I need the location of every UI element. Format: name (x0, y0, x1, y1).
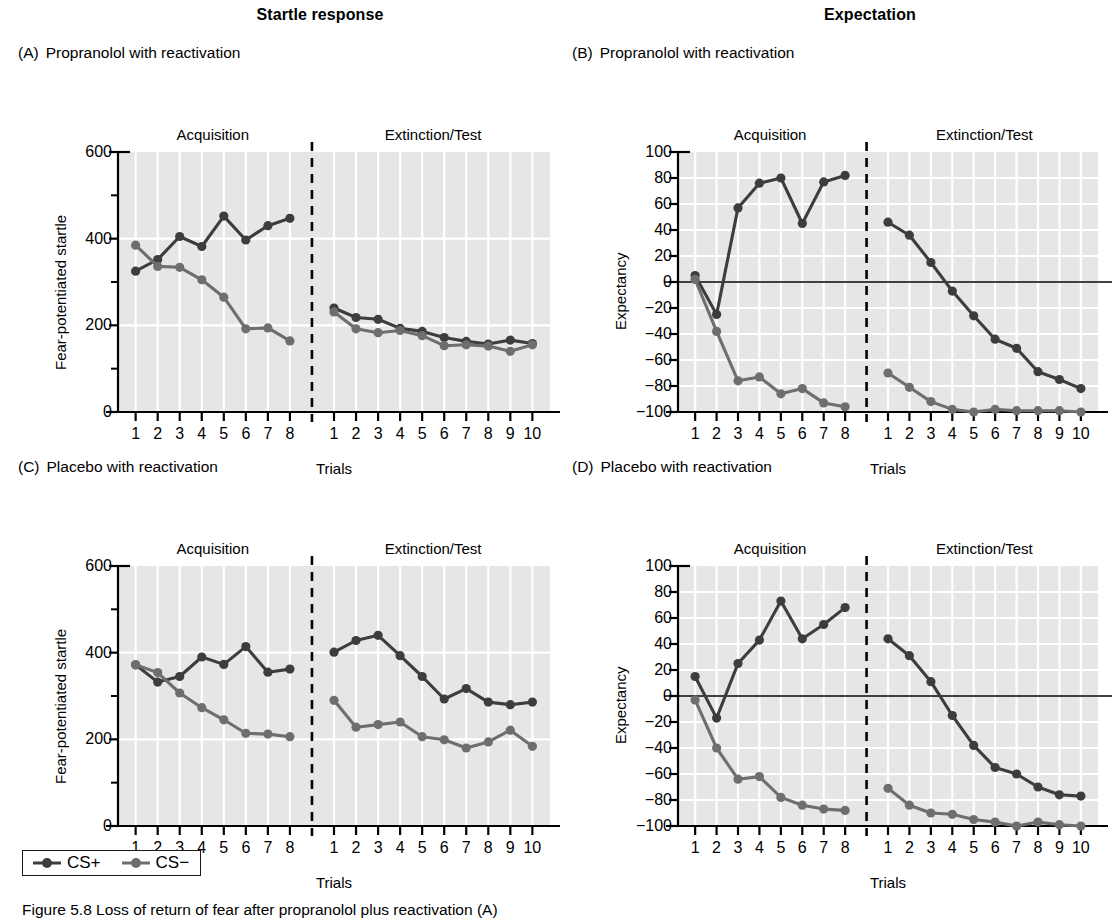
data-point-a-csplus-acq-3 (175, 232, 184, 241)
panel-d: (D)Placebo with reactivationAcquisitionE… (572, 458, 1092, 858)
data-point-a-csminus-ext-4 (396, 326, 405, 335)
data-point-b-csminus-ext-6 (991, 405, 1000, 414)
y-tick-label-d-1: −80 (616, 792, 672, 808)
y-tick-label-b-8: 60 (616, 196, 672, 212)
data-point-b-csplus-ext-1 (883, 218, 892, 227)
data-point-b-csminus-acq-5 (776, 389, 785, 398)
data-point-b-csplus-ext-5 (969, 311, 978, 320)
x-axis-title-c: Trials (118, 874, 550, 891)
data-point-b-csplus-acq-8 (841, 171, 850, 180)
y-tick-label-b-0: −100 (616, 404, 672, 420)
data-point-a-csminus-ext-6 (440, 341, 449, 350)
plot-background-c (118, 566, 550, 826)
panel-title-d: (D)Placebo with reactivation (572, 458, 772, 476)
data-point-a-csplus-ext-9 (506, 336, 515, 345)
series-line-c-csplus-ext (334, 635, 532, 704)
data-point-a-csminus-ext-9 (506, 347, 515, 356)
series-line-c-csminus-ext (334, 700, 532, 748)
data-point-d-csplus-acq-4 (755, 636, 764, 645)
y-tick-label-d-5: 0 (616, 688, 672, 704)
x-tick-label-a-ext-10: 10 (518, 426, 546, 442)
data-point-a-csminus-acq-7 (263, 323, 272, 332)
legend-item-csplus: CS+ (32, 854, 101, 871)
y-tick-label-a-3: 600 (56, 144, 112, 160)
panel-letter-b: (B) (572, 44, 593, 62)
phase-label-extinction-a: Extinction/Test (294, 126, 572, 143)
data-point-b-csplus-acq-6 (798, 219, 807, 228)
data-point-d-csminus-acq-7 (819, 805, 828, 814)
data-point-b-csplus-ext-10 (1076, 384, 1085, 393)
data-point-b-csminus-ext-10 (1076, 407, 1085, 416)
data-point-a-csplus-ext-5 (418, 327, 427, 336)
data-point-c-csminus-ext-9 (506, 726, 515, 735)
data-point-b-csminus-ext-7 (1012, 406, 1021, 415)
panel-letter-c: (C) (18, 458, 40, 476)
series-line-d-csplus-ext (888, 639, 1081, 796)
data-point-d-csplus-acq-3 (733, 659, 742, 668)
panel-title-text-c: Placebo with reactivation (47, 458, 218, 475)
data-point-d-csminus-acq-4 (755, 772, 764, 781)
data-point-c-csplus-ext-1 (329, 648, 338, 657)
data-point-c-csminus-acq-7 (263, 730, 272, 739)
y-tick-label-b-10: 100 (616, 144, 672, 160)
data-point-b-csminus-ext-8 (1033, 406, 1042, 415)
panel-title-a: (A)Propranolol with reactivation (18, 44, 240, 62)
data-point-d-csplus-ext-4 (948, 711, 957, 720)
data-point-d-csminus-ext-7 (1012, 821, 1021, 830)
data-point-b-csminus-acq-8 (841, 402, 850, 411)
data-point-b-csplus-acq-3 (733, 203, 742, 212)
data-point-b-csminus-acq-4 (755, 372, 764, 381)
y-tick-label-d-9: 80 (616, 584, 672, 600)
legend-label-csminus: CS− (156, 854, 190, 871)
data-point-b-csminus-acq-7 (819, 398, 828, 407)
data-point-a-csminus-ext-2 (351, 324, 360, 333)
series-line-b-csminus-ext (888, 373, 1081, 412)
data-point-a-csplus-ext-4 (396, 324, 405, 333)
y-axis-title-b: Expectancy (612, 252, 629, 330)
panel-title-text-b: Propranolol with reactivation (600, 44, 795, 61)
data-point-c-csplus-acq-6 (241, 642, 250, 651)
y-tick-label-b-5: 0 (616, 274, 672, 290)
y-tick-label-b-2: −60 (616, 352, 672, 368)
data-point-c-csplus-acq-3 (175, 672, 184, 681)
data-point-d-csminus-acq-3 (733, 775, 742, 784)
data-point-d-csminus-acq-5 (776, 793, 785, 802)
column-title-expectation: Expectation (690, 6, 1050, 24)
data-point-a-csminus-acq-8 (285, 336, 294, 345)
data-point-a-csplus-ext-7 (462, 337, 471, 346)
data-point-d-csplus-ext-2 (905, 651, 914, 660)
x-tick-label-d-acq-8: 8 (831, 840, 859, 856)
data-point-b-csplus-ext-2 (905, 231, 914, 240)
series-line-d-csplus-acq (695, 601, 845, 718)
data-point-a-csplus-acq-7 (263, 221, 272, 230)
x-tick-label-c-acq-8: 8 (276, 840, 304, 856)
data-point-b-csminus-acq-1 (691, 275, 700, 284)
series-line-b-csplus-acq (695, 175, 845, 314)
data-point-d-csplus-acq-8 (841, 603, 850, 612)
data-point-c-csplus-acq-2 (153, 678, 162, 687)
data-point-d-csminus-acq-8 (841, 806, 850, 815)
data-point-a-csplus-acq-8 (285, 214, 294, 223)
data-point-c-csminus-acq-5 (219, 715, 228, 724)
phase-label-extinction-b: Extinction/Test (848, 126, 1116, 143)
data-point-c-csminus-acq-3 (175, 688, 184, 697)
data-point-c-csminus-ext-10 (528, 742, 537, 751)
y-tick-label-d-10: 100 (616, 558, 672, 574)
data-point-a-csminus-acq-4 (197, 275, 206, 284)
y-tick-label-b-7: 40 (616, 222, 672, 238)
data-point-d-csplus-acq-5 (776, 597, 785, 606)
data-point-c-csplus-ext-3 (374, 631, 383, 640)
data-point-d-csplus-ext-6 (991, 763, 1000, 772)
y-tick-label-d-8: 60 (616, 610, 672, 626)
caption-text: Figure 5.8 Loss of return of fear after … (22, 901, 498, 918)
data-point-c-csminus-acq-8 (285, 732, 294, 741)
data-point-d-csplus-ext-1 (883, 634, 892, 643)
data-point-b-csminus-acq-2 (712, 327, 721, 336)
data-point-a-csplus-ext-8 (484, 339, 493, 348)
plot-background-a (118, 152, 550, 412)
data-point-a-csplus-acq-6 (241, 235, 250, 244)
data-point-a-csminus-acq-5 (219, 293, 228, 302)
figure-caption: Figure 5.8 Loss of return of fear after … (22, 901, 1082, 919)
data-point-d-csminus-ext-2 (905, 801, 914, 810)
